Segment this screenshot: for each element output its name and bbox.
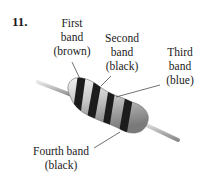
second-band-leader <box>101 76 111 86</box>
resistor-diagram <box>0 0 202 180</box>
third-band-leader <box>116 85 160 97</box>
first-band-leader <box>72 62 80 79</box>
resistor-body <box>68 74 148 138</box>
fourth-band-leader <box>94 132 120 148</box>
